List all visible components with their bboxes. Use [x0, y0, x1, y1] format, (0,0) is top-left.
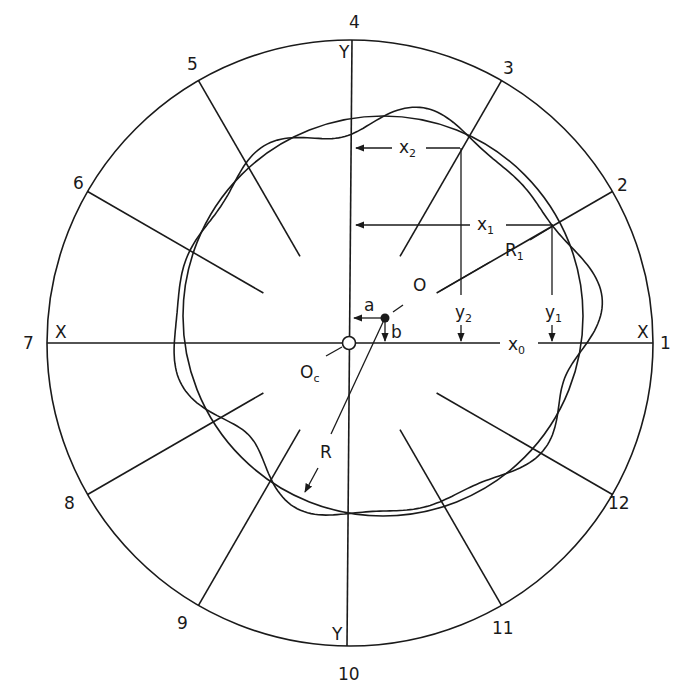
radial-line-12 [437, 393, 613, 495]
y1-label: y1 [545, 302, 562, 325]
division-label-9: 9 [177, 613, 188, 633]
x-axis-right-label: X [637, 322, 649, 342]
y-axis-bottom-label: Y [331, 624, 343, 644]
radial-line-8 [88, 393, 264, 495]
division-label-11: 11 [492, 618, 514, 638]
radial-line-9 [199, 430, 301, 606]
oc-leader-line [326, 347, 342, 356]
division-label-10: 10 [338, 664, 360, 684]
division-label-4: 4 [349, 12, 360, 32]
division-label-7: 7 [23, 333, 34, 353]
division-label-6: 6 [73, 173, 84, 193]
y2-label: y2 [455, 302, 472, 325]
radial-line-11 [400, 430, 502, 606]
radial-line-6 [88, 192, 264, 294]
division-label-5: 5 [187, 54, 198, 74]
r1-line-segment [530, 226, 553, 240]
roundness-polar-diagram: x2 x1 y2 y1 x0 R1 O a b R Oc X X Y Y 1 2… [0, 0, 685, 694]
radial-line-5 [199, 81, 301, 257]
x-axis-left-label: X [55, 322, 67, 342]
division-label-1: 1 [660, 333, 671, 353]
division-label-8: 8 [64, 493, 75, 513]
division-label-2: 2 [617, 175, 628, 195]
r1-line-segment [440, 262, 490, 291]
r-radius-line [331, 320, 384, 434]
r-radius-arrow [305, 468, 318, 492]
o-label: O [413, 275, 426, 295]
y-axis-top-label: Y [338, 42, 350, 62]
oc-label: Oc [300, 362, 319, 385]
chart-center-circle [343, 337, 356, 350]
a-label: a [364, 295, 374, 315]
r1-line-segment [393, 305, 403, 312]
b-label: b [391, 322, 402, 342]
division-label-12: 12 [608, 493, 630, 513]
r-label: R [320, 442, 332, 462]
division-label-3: 3 [503, 58, 514, 78]
profile-center-dot [381, 314, 390, 323]
